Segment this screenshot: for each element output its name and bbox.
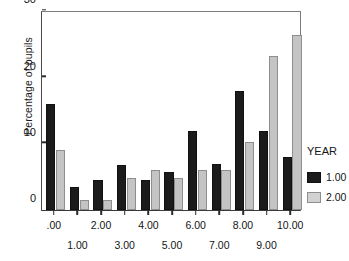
y-axis-tick-label: 10	[24, 126, 42, 138]
bar-1-00-9-00	[259, 131, 268, 210]
bar-1-00-5-00	[164, 172, 173, 210]
bar-group	[43, 12, 67, 210]
y-axis-tick-label: 20	[24, 60, 42, 72]
bar-1-00-1-00	[70, 187, 79, 210]
y-axis-tick-mark	[42, 76, 46, 77]
legend-item-label: 2.00	[326, 191, 346, 203]
x-axis-tick-mark	[289, 210, 291, 215]
bar-group	[209, 12, 233, 210]
bar-group	[185, 12, 209, 210]
bar-2-00-10-00	[292, 35, 301, 210]
x-axis-tick-mark	[53, 210, 55, 215]
bar-group	[67, 12, 91, 210]
x-axis-tick-label: 10.00	[277, 219, 303, 231]
legend-swatch-icon	[307, 192, 321, 203]
bar-2-00-1-00	[80, 200, 89, 210]
x-axis-tick-mark	[148, 210, 150, 215]
bar-group	[91, 12, 115, 210]
bar-group	[138, 12, 162, 210]
x-axis-tick-label: 5.00	[162, 239, 182, 251]
x-axis-tick-mark	[242, 210, 244, 215]
bar-1-00-2-00	[93, 180, 102, 210]
bar-1-00-4-00	[141, 180, 150, 210]
bar-1-00-6-00	[188, 131, 197, 210]
x-axis-tick-mark	[77, 210, 79, 215]
x-axis-tick-label: 8.00	[233, 219, 253, 231]
y-axis-tick-label: 30	[24, 0, 42, 5]
bar-2-00-5-00	[174, 178, 183, 210]
x-axis-tick-label: 9.00	[256, 239, 276, 251]
plot-area: 0102030.001.002.003.004.005.006.007.008.…	[41, 11, 301, 211]
bar-2-00-2-00	[103, 200, 112, 210]
bar-1-00--00	[46, 104, 55, 210]
y-axis-label: Percentage of pupils	[22, 6, 34, 166]
bar-chart: Percentage of pupils 0102030.001.002.003…	[0, 0, 349, 261]
x-axis-tick-mark	[100, 210, 102, 215]
x-axis-tick-mark	[195, 210, 197, 215]
x-axis-tick-label: 3.00	[115, 239, 135, 251]
bar-2-00-4-00	[151, 170, 160, 210]
legend-title: YEAR	[307, 145, 349, 157]
bar-2-00-7-00	[221, 170, 230, 210]
legend: YEAR 1.002.00	[307, 145, 349, 211]
bar-group	[162, 12, 186, 210]
bar-1-00-10-00	[283, 157, 292, 210]
legend-item-2-00: 2.00	[307, 191, 349, 203]
x-axis-tick-mark	[266, 210, 268, 215]
bar-group	[280, 12, 304, 210]
x-axis-tick-label: 7.00	[209, 239, 229, 251]
bar-1-00-7-00	[212, 164, 221, 210]
bars-container	[43, 12, 300, 210]
legend-item-label: 1.00	[326, 171, 346, 183]
x-axis-tick-label: 1.00	[67, 239, 87, 251]
x-axis-tick-mark	[124, 210, 126, 215]
x-axis-tick-label: .00	[47, 219, 62, 231]
bar-2-00--00	[56, 150, 65, 210]
x-axis-tick-label: 4.00	[138, 219, 158, 231]
bar-2-00-3-00	[127, 178, 136, 210]
bar-group	[256, 12, 280, 210]
x-axis-tick-label: 6.00	[185, 219, 205, 231]
bar-group	[232, 12, 256, 210]
bar-2-00-8-00	[245, 142, 254, 210]
y-axis-tick-mark	[42, 9, 46, 10]
x-axis-tick-mark	[171, 210, 173, 215]
bar-2-00-6-00	[198, 170, 207, 210]
legend-item-1-00: 1.00	[307, 171, 349, 183]
legend-swatch-icon	[307, 172, 321, 183]
y-axis-tick-label: 0	[30, 192, 42, 204]
bar-1-00-3-00	[117, 165, 126, 210]
bar-2-00-9-00	[269, 56, 278, 210]
x-axis-tick-mark	[218, 210, 220, 215]
x-axis-tick-label: 2.00	[91, 219, 111, 231]
bar-group	[114, 12, 138, 210]
bar-1-00-8-00	[235, 91, 244, 210]
